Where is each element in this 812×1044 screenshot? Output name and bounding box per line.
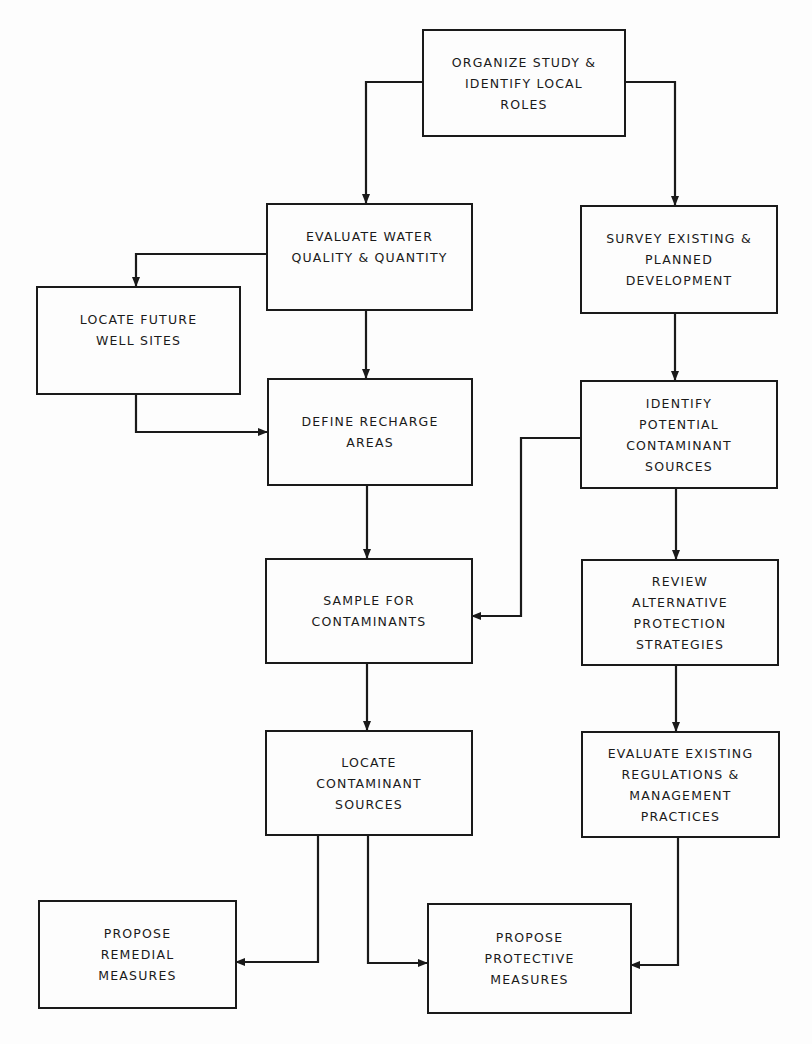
node-label: IDENTIFY: [646, 393, 712, 414]
node-label: WELL SITES: [96, 330, 181, 351]
node-review-strategies: REVIEW ALTERNATIVE PROTECTION STRATEGIES: [581, 559, 779, 666]
node-locate-contaminant-sources: LOCATE CONTAMINANT SOURCES: [265, 730, 473, 836]
node-label: REMEDIAL: [101, 944, 175, 965]
node-label: ROLES: [500, 94, 547, 115]
node-label: EVALUATE WATER: [306, 226, 433, 247]
node-label: PROTECTIVE: [484, 948, 574, 969]
node-label: CONTAMINANT: [626, 435, 732, 456]
node-label: STRATEGIES: [636, 634, 724, 655]
node-label: SOURCES: [645, 456, 713, 477]
node-label: CONTAMINANT: [316, 773, 422, 794]
node-locate-well-sites: LOCATE FUTURE WELL SITES .: [36, 286, 241, 395]
node-label: DEFINE RECHARGE: [301, 411, 438, 432]
node-label: MEASURES: [98, 965, 176, 986]
node-label: PROPOSE: [496, 927, 564, 948]
node-label: SOURCES: [335, 794, 403, 815]
node-label: QUALITY & QUANTITY: [291, 247, 447, 268]
node-label: LOCATE FUTURE: [80, 309, 197, 330]
node-label: AREAS: [346, 432, 394, 453]
node-label: EVALUATE EXISTING: [608, 743, 754, 764]
node-label: PROTECTION: [634, 613, 727, 634]
node-label: MANAGEMENT: [629, 785, 731, 806]
node-evaluate-regulations: EVALUATE EXISTING REGULATIONS & MANAGEME…: [581, 731, 780, 838]
node-label: IDENTIFY LOCAL: [465, 73, 583, 94]
connector-lines: [0, 0, 812, 1044]
node-survey-development: SURVEY EXISTING & PLANNED DEVELOPMENT: [580, 205, 778, 314]
node-label: PRACTICES: [641, 806, 720, 827]
node-label: ORGANIZE STUDY &: [452, 52, 596, 73]
node-label: SURVEY EXISTING &: [606, 228, 752, 249]
node-label: ALTERNATIVE: [632, 592, 728, 613]
node-label: PLANNED: [645, 249, 713, 270]
node-label: SAMPLE FOR: [323, 590, 415, 611]
node-label: DEVELOPMENT: [626, 270, 733, 291]
node-propose-protective: PROPOSE PROTECTIVE MEASURES: [427, 903, 632, 1014]
node-label: POTENTIAL: [639, 414, 719, 435]
node-evaluate-water: EVALUATE WATER QUALITY & QUANTITY .: [266, 203, 473, 311]
node-sample-contaminants: SAMPLE FOR CONTAMINANTS: [265, 558, 473, 664]
node-label: CONTAMINANTS: [312, 611, 427, 632]
node-identify-sources: IDENTIFY POTENTIAL CONTAMINANT SOURCES: [580, 380, 778, 489]
node-label: PROPOSE: [104, 923, 172, 944]
node-label: LOCATE: [341, 752, 396, 773]
node-label: MEASURES: [490, 969, 568, 990]
node-define-recharge: DEFINE RECHARGE AREAS: [267, 378, 473, 486]
node-propose-remedial: PROPOSE REMEDIAL MEASURES: [38, 900, 237, 1009]
node-label: REVIEW: [652, 571, 708, 592]
node-organize-study: ORGANIZE STUDY & IDENTIFY LOCAL ROLES: [422, 29, 626, 137]
node-label: REGULATIONS &: [621, 764, 739, 785]
